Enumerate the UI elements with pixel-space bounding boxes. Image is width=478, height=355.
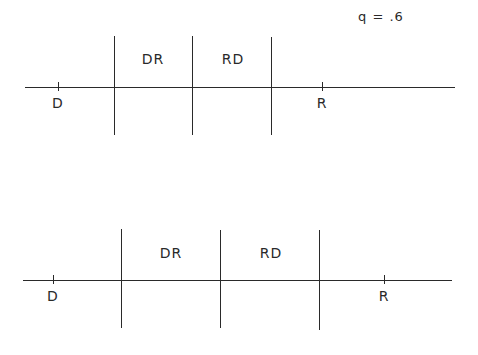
top-divider-1	[114, 36, 115, 135]
bottom-region-label-dr: DR	[160, 246, 183, 260]
bottom-divider-3	[319, 230, 320, 330]
top-axis-line	[25, 87, 455, 88]
bottom-axis-line	[23, 280, 452, 281]
top-point-label-d: D	[52, 96, 64, 110]
top-divider-3	[271, 37, 272, 135]
parameter-label: q = .6	[358, 10, 404, 23]
bottom-r-tick	[384, 275, 385, 284]
top-divider-2	[192, 36, 193, 135]
top-point-label-r: R	[317, 96, 328, 110]
top-region-label-rd: RD	[222, 52, 245, 66]
bottom-region-label-rd: RD	[260, 246, 283, 260]
bottom-point-label-r: R	[379, 289, 390, 303]
bottom-divider-2	[220, 230, 221, 328]
top-r-tick	[322, 82, 323, 91]
top-d-tick	[58, 82, 59, 91]
bottom-d-tick	[53, 275, 54, 284]
bottom-point-label-d: D	[47, 289, 59, 303]
bottom-divider-1	[121, 229, 122, 328]
top-region-label-dr: DR	[142, 52, 165, 66]
